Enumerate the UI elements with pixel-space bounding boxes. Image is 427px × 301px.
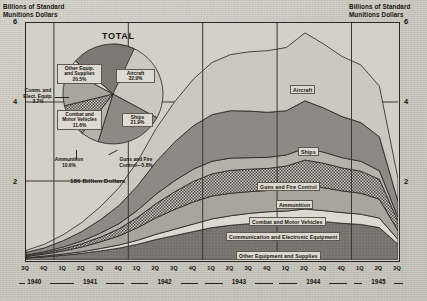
pie-label-communication: Comm. and Elect. Equip. 3.7% <box>16 88 60 105</box>
total-pie-chart <box>61 42 165 146</box>
x-tick-10: 1Q <box>203 265 219 271</box>
pie-label-ships: Ships 21.9% <box>122 113 153 127</box>
year-label-1945: 1945 <box>364 278 392 285</box>
pie-label-combat-vehicles: Combat and Motor Vehicles 11.6% <box>57 110 102 130</box>
x-tick-12: 3Q <box>240 265 256 271</box>
year-label-1941: 1941 <box>76 278 104 285</box>
year-rule-right-1943 <box>255 283 273 284</box>
year-rule-left-1942 <box>131 283 149 284</box>
band-label-guns: Guns and Fire Control <box>257 182 320 191</box>
year-rule-right-1941 <box>106 283 124 284</box>
pie-total-label: 186 Billion Dollars <box>70 177 126 184</box>
x-tick-15: 2Q <box>296 265 312 271</box>
x-tick-9: 4Q <box>184 265 200 271</box>
pie-label-ammunition: Ammunition 10.6% <box>48 157 90 168</box>
year-rule-left-1943 <box>205 283 223 284</box>
x-tick-18: 1Q <box>352 265 368 271</box>
band-label-aircraft: Aircraft <box>290 85 315 94</box>
x-tick-0: 3Q <box>17 265 33 271</box>
leader-line-communication <box>55 97 69 98</box>
x-tick-16: 3Q <box>315 265 331 271</box>
x-tick-7: 2Q <box>147 265 163 271</box>
band-label-ships: Ships <box>298 147 319 156</box>
year-label-1942: 1942 <box>151 278 179 285</box>
year-label-1944: 1944 <box>299 278 327 285</box>
y-tick-right-2: 2 <box>404 177 408 186</box>
pie-label-other-equipment: Other Equip. and Supplies 20.5% <box>57 64 102 84</box>
pie-label-guns-fire-control: Guns and Fire Control—5.8% <box>110 157 162 168</box>
x-tick-11: 2Q <box>222 265 238 271</box>
year-rule-right-1945 <box>394 283 403 284</box>
x-tick-20: 3Q <box>389 265 405 271</box>
y-tick-right-6: 6 <box>404 17 408 26</box>
y-tick-right-4: 4 <box>404 97 408 106</box>
band-label-combat: Combat and Motor Vehicles <box>249 217 326 226</box>
band-label-communication: Communication and Electronic Equipment <box>226 232 340 241</box>
x-tick-8: 3Q <box>166 265 182 271</box>
x-tick-1: 4Q <box>36 265 52 271</box>
leader-line-ammunition <box>76 150 77 160</box>
x-tick-5: 4Q <box>110 265 126 271</box>
x-tick-14: 1Q <box>277 265 293 271</box>
year-rule-right-1944 <box>329 283 347 284</box>
year-rule-left-1941 <box>56 283 74 284</box>
right-axis-title: Billions of Standard Munitions Dollars <box>349 3 410 19</box>
pie-label-aircraft: Aircraft 32.9% <box>116 69 155 83</box>
x-tick-4: 3Q <box>91 265 107 271</box>
y-tick-left-2: 2 <box>13 177 17 186</box>
x-tick-13: 4Q <box>259 265 275 271</box>
year-rule-right-1942 <box>181 283 199 284</box>
year-rule-left-1944 <box>279 283 297 284</box>
band-label-other: Other Equipment and Supplies <box>236 251 321 260</box>
x-tick-3: 2Q <box>73 265 89 271</box>
pie-title: TOTAL <box>102 31 135 41</box>
year-rule-left-1945 <box>354 283 363 284</box>
x-tick-19: 2Q <box>370 265 386 271</box>
year-rule-left-1940 <box>19 283 25 284</box>
x-tick-6: 1Q <box>129 265 145 271</box>
x-tick-17: 4Q <box>333 265 349 271</box>
year-label-1943: 1943 <box>225 278 253 285</box>
x-tick-2: 1Q <box>54 265 70 271</box>
band-label-ammunition: Ammunition <box>276 200 313 209</box>
y-tick-left-6: 6 <box>13 17 17 26</box>
